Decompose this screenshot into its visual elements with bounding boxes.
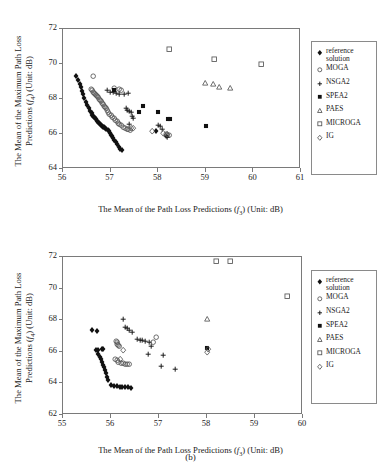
legend-item-spea2[interactable]: SPEA2	[315, 321, 374, 330]
plus-icon	[315, 78, 326, 87]
legend-item-spea2[interactable]: SPEA2	[315, 92, 374, 101]
data-point	[93, 327, 101, 335]
filled-diamond-icon	[315, 276, 326, 285]
y-axis-tick	[59, 288, 63, 289]
filled-square-icon	[315, 321, 326, 330]
x-axis-tick	[62, 414, 63, 418]
legend-item-microga[interactable]: MICROGA	[315, 119, 374, 128]
data-point	[165, 45, 173, 53]
x-axis-tick-label: 56	[98, 419, 122, 428]
legend-item-microga[interactable]: MICROGA	[315, 348, 374, 357]
open-diamond-icon	[315, 361, 326, 370]
open-square-icon	[315, 348, 326, 357]
legend-item-moga[interactable]: MOGA	[315, 64, 374, 73]
legend-item-label: SPEA2	[326, 92, 348, 100]
data-point	[119, 346, 127, 354]
legend-item-label: MOGA	[326, 293, 349, 301]
y-axis-title-line2: Predictions (f4) (Unit: dB)	[24, 236, 36, 440]
legend-item-paes[interactable]: PAES	[315, 334, 374, 343]
data-point	[159, 351, 167, 359]
y-axis-tick	[59, 133, 63, 134]
chart-panel-b: 555657585960626466687072The Mean of the …	[0, 240, 381, 452]
x-axis-tick	[110, 414, 111, 418]
y-axis-tick-label: 68	[36, 93, 57, 102]
y-axis-tick-label: 64	[36, 163, 57, 172]
data-point	[124, 89, 132, 97]
data-point	[127, 384, 135, 392]
x-axis-tick	[158, 414, 159, 418]
open-triangle-icon	[315, 105, 326, 114]
data-point	[116, 355, 124, 363]
data-point	[148, 127, 156, 135]
data-point	[215, 83, 223, 91]
x-axis-tick-label: 58	[194, 419, 218, 428]
x-axis-tick	[157, 168, 158, 172]
legend-item-label: PAES	[326, 105, 343, 113]
data-point	[171, 365, 179, 373]
y-axis-tick-label: 66	[36, 128, 57, 137]
y-axis-tick-label: 64	[36, 377, 57, 386]
data-point	[202, 122, 210, 130]
y-axis-tick	[59, 98, 63, 99]
x-axis-title: The Mean of the Path Loss Predictions (f…	[0, 204, 381, 216]
legend-item-label: MICROGA	[326, 348, 361, 356]
data-point	[163, 130, 171, 138]
data-point	[226, 257, 234, 265]
legend-item-label: SPEA2	[326, 321, 348, 329]
legend-item-paes[interactable]: PAES	[315, 105, 374, 114]
data-point	[166, 115, 174, 123]
legend-item-reference-solution[interactable]: reference solution	[315, 276, 374, 292]
legend-item-nsga2[interactable]: NSGA2	[315, 307, 374, 316]
data-point	[203, 315, 211, 323]
y-axis-tick-label: 70	[36, 58, 57, 67]
y-axis-tick	[59, 168, 63, 169]
x-axis-tick	[252, 168, 253, 172]
data-point	[204, 345, 212, 353]
x-axis-tick	[254, 414, 255, 418]
data-point	[144, 350, 152, 358]
open-diamond-icon	[315, 132, 326, 141]
chart-legend: reference solutionMOGANSGA2SPEA2PAESMICR…	[311, 270, 377, 404]
x-axis-tick-label: 57	[146, 419, 170, 428]
x-axis-tick-label: 57	[98, 173, 122, 182]
legend-item-nsga2[interactable]: NSGA2	[315, 78, 374, 87]
filled-diamond-icon	[315, 47, 326, 56]
legend-item-moga[interactable]: MOGA	[315, 293, 374, 302]
plus-icon	[315, 307, 326, 316]
x-axis-tick-label: 59	[242, 419, 266, 428]
y-axis-tick-label: 72	[36, 23, 57, 32]
open-hexagon-icon	[315, 64, 326, 73]
open-triangle-icon	[315, 334, 326, 343]
data-point	[118, 146, 126, 154]
x-axis-tick	[205, 168, 206, 172]
legend-item-label: MICROGA	[326, 119, 361, 127]
legend-item-label: reference solution	[326, 47, 353, 63]
x-axis-tick-label: 56	[50, 173, 74, 182]
legend-item-ig[interactable]: IG	[315, 361, 374, 370]
legend-item-ig[interactable]: IG	[315, 132, 374, 141]
x-axis-tick	[300, 168, 301, 172]
data-point	[99, 345, 107, 353]
data-point	[110, 86, 118, 94]
data-point	[157, 362, 165, 370]
open-square-icon	[315, 119, 326, 128]
y-axis-tick	[59, 28, 63, 29]
filled-square-icon	[315, 92, 326, 101]
y-axis-tick	[59, 256, 63, 257]
y-axis-tick	[59, 63, 63, 64]
data-point	[257, 60, 265, 68]
x-axis-tick-label: 55	[50, 419, 74, 428]
x-axis-tick-label: 60	[240, 173, 264, 182]
chart-legend: reference solutionMOGANSGA2SPEA2PAESMICR…	[311, 41, 377, 175]
y-axis-tick	[59, 414, 63, 415]
chart-panel-a: 5657585960616466687072The Mean of the Pa…	[0, 0, 381, 228]
data-point	[212, 257, 220, 265]
legend-item-label: MOGA	[326, 64, 349, 72]
legend-item-reference-solution[interactable]: reference solution	[315, 47, 374, 63]
x-axis-tick	[206, 414, 207, 418]
legend-item-label: reference solution	[326, 276, 353, 292]
legend-item-label: IG	[326, 132, 334, 140]
plot-area	[62, 256, 302, 414]
legend-item-label: NSGA2	[326, 307, 350, 315]
x-axis-tick	[302, 414, 303, 418]
